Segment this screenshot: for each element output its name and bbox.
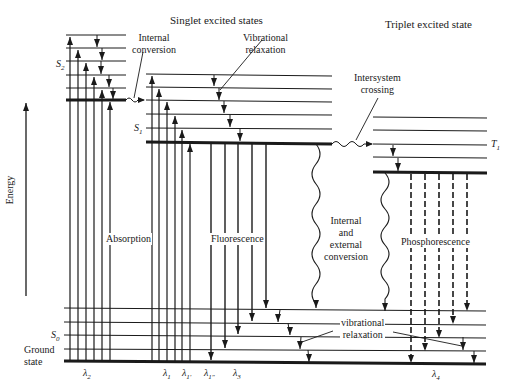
s1-label: S1 <box>134 122 143 138</box>
lambda-2-label: λ2 <box>83 367 91 383</box>
internal-conversion-label: Internalconversion <box>132 32 176 56</box>
t1-label: T1 <box>491 138 500 154</box>
s1-levels <box>146 74 332 144</box>
lambda-1-label: λ1 <box>163 367 171 383</box>
absorption-arrows-s2 <box>70 37 110 361</box>
internal-external-conversion-label: Internalandexternalconversion <box>324 215 368 263</box>
fluorescence-arrows <box>211 144 266 360</box>
lambda-1-prime-label: λ1′ <box>182 367 191 383</box>
internal-conversion-s1-wave <box>312 144 320 308</box>
triplet-header: Triplet excited state <box>385 18 472 30</box>
fluorescence-label: Fluorescence <box>210 233 265 245</box>
absorption-arrows-s1 <box>152 76 190 361</box>
intersystem-crossing-label: Intersystemcrossing <box>354 72 401 96</box>
ground-state-label: Groundstate <box>24 344 55 368</box>
lambda-3-label: λ3 <box>233 367 241 383</box>
s1-relaxation-arrows <box>214 75 240 141</box>
isc-pointer <box>356 98 378 140</box>
jablonski-diagram <box>0 0 517 391</box>
t1-levels <box>373 117 487 173</box>
absorption-label: Absorption <box>105 233 152 245</box>
s2-levels <box>66 35 126 100</box>
phosphorescence-label: Phosphorescence <box>400 236 471 248</box>
vibrational-relaxation-bottom-label: vibrationalrelaxation <box>340 317 385 341</box>
lambda-4-label: λ4 <box>432 368 440 384</box>
singlet-header: Singlet excited states <box>170 14 263 26</box>
lambda-1-double-prime-label: λ1″ <box>204 367 215 383</box>
s2-relaxation-arrows <box>97 35 113 99</box>
t1-relaxation-arrows <box>393 145 398 171</box>
s0-label: S0 <box>51 329 60 345</box>
internal-conversion-t1-wave <box>381 173 389 311</box>
internal-conversion-wave <box>126 98 144 102</box>
energy-label: Energy <box>4 176 16 205</box>
intersystem-crossing-wave <box>332 142 372 147</box>
s2-label: S2 <box>56 58 65 74</box>
vibrational-relaxation-top-label: Vibrationalrelaxation <box>243 32 288 56</box>
s0-levels <box>64 308 486 364</box>
internal-conversion-pointer <box>134 52 143 98</box>
